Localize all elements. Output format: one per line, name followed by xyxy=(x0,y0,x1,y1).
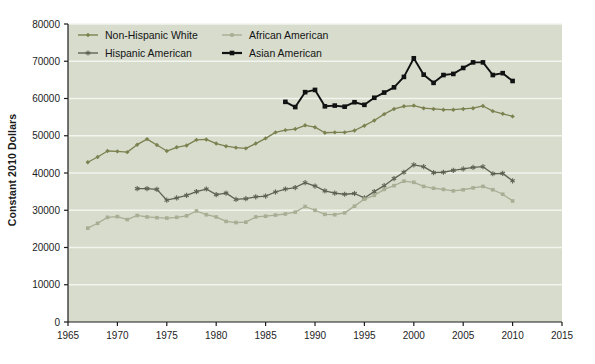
x-tick-label-1990: 1990 xyxy=(304,330,327,341)
x-axis-ticks: 1965197019751980198519901995200020052010… xyxy=(57,322,574,341)
series-point-2-2 xyxy=(106,216,110,220)
series-point-3-17 xyxy=(451,72,456,77)
series-point-2-9 xyxy=(175,216,179,220)
series-point-2-32 xyxy=(402,179,406,183)
series-point-3-8 xyxy=(362,103,367,108)
series-point-2-42 xyxy=(501,192,505,196)
x-tick-label-2015: 2015 xyxy=(551,330,574,341)
x-tick-label-2005: 2005 xyxy=(452,330,475,341)
series-point-3-7 xyxy=(352,100,357,105)
series-point-3-13 xyxy=(412,56,417,61)
series-point-2-14 xyxy=(224,220,228,224)
series-point-3-15 xyxy=(431,81,436,86)
series-point-2-35 xyxy=(432,186,436,190)
series-point-2-41 xyxy=(491,188,495,192)
y-axis-ticks: 0100002000030000400005000060000700008000… xyxy=(32,19,68,328)
series-point-3-16 xyxy=(441,73,446,78)
x-tick-label-2000: 2000 xyxy=(403,330,426,341)
series-point-3-5 xyxy=(332,103,337,108)
series-point-3-20 xyxy=(481,60,486,65)
x-tick-label-1975: 1975 xyxy=(156,330,179,341)
series-point-2-5 xyxy=(135,214,139,218)
x-tick-label-1980: 1980 xyxy=(205,330,228,341)
x-tick-label-1985: 1985 xyxy=(254,330,277,341)
y-tick-label-30000: 30000 xyxy=(32,205,60,216)
series-point-3-22 xyxy=(500,71,505,76)
series-point-2-31 xyxy=(392,184,396,188)
series-point-3-1 xyxy=(293,105,298,110)
series-point-2-0 xyxy=(86,226,90,230)
series-point-2-40 xyxy=(481,185,485,189)
series-point-3-9 xyxy=(372,95,377,100)
legend-marker-1 xyxy=(230,33,234,37)
series-point-2-19 xyxy=(274,213,278,217)
series-point-3-3 xyxy=(313,88,318,93)
chart-container: Constant 2010 Dollars 010000200003000040… xyxy=(0,0,595,364)
series-point-2-3 xyxy=(116,215,120,219)
series-point-2-22 xyxy=(303,205,307,209)
series-point-2-43 xyxy=(511,199,515,203)
y-tick-label-80000: 80000 xyxy=(32,19,60,30)
y-tick-label-50000: 50000 xyxy=(32,130,60,141)
series-point-2-28 xyxy=(363,197,367,201)
legend-marker-3 xyxy=(230,51,235,56)
series-point-3-6 xyxy=(342,104,347,109)
series-point-3-23 xyxy=(510,79,515,84)
series-point-2-17 xyxy=(254,215,258,219)
series-point-2-15 xyxy=(234,221,238,225)
y-tick-label-0: 0 xyxy=(54,317,60,328)
y-tick-label-60000: 60000 xyxy=(32,93,60,104)
series-point-3-2 xyxy=(303,90,308,95)
series-point-3-18 xyxy=(461,66,466,71)
legend-label-0: Non-Hispanic White xyxy=(105,29,198,41)
series-point-2-25 xyxy=(333,213,337,217)
series-point-2-38 xyxy=(461,188,465,192)
series-point-2-1 xyxy=(96,221,100,225)
y-tick-label-40000: 40000 xyxy=(32,168,60,179)
x-tick-label-1995: 1995 xyxy=(353,330,376,341)
series-point-2-27 xyxy=(353,204,357,208)
series-point-2-13 xyxy=(214,215,218,219)
y-tick-label-20000: 20000 xyxy=(32,242,60,253)
series-point-3-21 xyxy=(491,73,496,78)
series-point-2-4 xyxy=(125,218,129,222)
series-point-2-30 xyxy=(382,188,386,192)
y-tick-label-10000: 10000 xyxy=(32,279,60,290)
series-point-2-18 xyxy=(264,214,268,218)
legend-label-3: Asian American xyxy=(249,47,322,59)
series-point-2-37 xyxy=(452,189,456,193)
series-point-2-20 xyxy=(284,212,288,216)
series-point-2-33 xyxy=(412,181,416,185)
series-point-2-11 xyxy=(195,209,199,213)
legend-label-1: African American xyxy=(249,29,329,41)
line-chart-plot: 0100002000030000400005000060000700008000… xyxy=(0,0,595,364)
x-tick-label-1965: 1965 xyxy=(57,330,80,341)
series-point-3-14 xyxy=(421,72,426,77)
series-point-2-34 xyxy=(422,185,426,189)
series-point-3-11 xyxy=(392,85,397,90)
series-point-2-12 xyxy=(205,213,209,217)
series-point-2-8 xyxy=(165,216,169,220)
series-point-2-29 xyxy=(372,194,376,198)
series-point-3-10 xyxy=(382,90,387,95)
x-tick-label-1970: 1970 xyxy=(106,330,129,341)
series-point-2-26 xyxy=(343,211,347,215)
x-tick-label-2010: 2010 xyxy=(501,330,524,341)
series-point-2-10 xyxy=(185,214,189,218)
y-tick-label-70000: 70000 xyxy=(32,56,60,67)
series-point-2-23 xyxy=(313,208,317,212)
series-point-2-24 xyxy=(323,213,327,217)
series-point-3-19 xyxy=(471,60,476,65)
series-point-3-12 xyxy=(402,75,407,80)
legend-label-2: Hispanic American xyxy=(105,47,192,59)
series-point-3-4 xyxy=(323,104,328,109)
series-point-3-0 xyxy=(283,100,288,105)
series-point-2-7 xyxy=(155,216,159,220)
series-point-2-36 xyxy=(442,188,446,192)
series-point-2-39 xyxy=(471,186,475,190)
series-point-2-21 xyxy=(293,210,297,214)
series-point-2-6 xyxy=(145,215,149,219)
series-point-2-16 xyxy=(244,220,248,224)
